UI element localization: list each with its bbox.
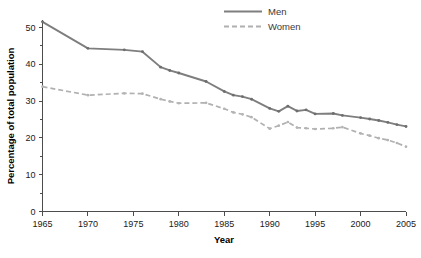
- data-point-men: [86, 47, 89, 50]
- data-point-men: [368, 118, 371, 121]
- data-point-women: [123, 92, 126, 95]
- series-markers-men: [41, 20, 407, 127]
- chart-figure: 01020304050 1965197019751980198519901995…: [0, 0, 421, 258]
- data-point-men: [41, 20, 44, 23]
- series-line-men: [43, 22, 407, 127]
- x-tick-label: 1985: [214, 219, 234, 229]
- data-point-men: [123, 48, 126, 51]
- data-point-women: [386, 139, 389, 142]
- y-tick-label: 0: [30, 207, 35, 217]
- data-point-men: [386, 121, 389, 124]
- x-axis-tick-labels: 196519701975198019851990199520002005: [32, 219, 416, 229]
- data-point-women: [296, 126, 299, 129]
- data-point-men: [159, 66, 162, 69]
- x-tick-label: 2000: [351, 219, 371, 229]
- data-point-men: [232, 94, 235, 97]
- x-tick-label: 2005: [396, 219, 416, 229]
- data-point-women: [41, 85, 44, 88]
- caption-strip: [0, 247, 421, 258]
- data-point-men: [277, 110, 280, 113]
- chart-legend: Men Women: [224, 6, 301, 32]
- x-tick-label: 1990: [260, 219, 280, 229]
- data-point-women: [159, 98, 162, 101]
- legend-label-women: Women: [268, 21, 301, 32]
- data-point-men: [377, 119, 380, 122]
- data-point-men: [268, 107, 271, 110]
- line-chart-canvas: 01020304050 1965197019751980198519901995…: [0, 0, 421, 258]
- data-point-men: [296, 110, 299, 113]
- x-tick-label: 1965: [32, 219, 52, 229]
- data-point-women: [223, 107, 226, 110]
- data-point-women: [205, 102, 208, 105]
- data-point-men: [314, 112, 317, 115]
- data-point-men: [359, 116, 362, 119]
- data-point-men: [168, 69, 171, 72]
- x-tick-label: 1975: [123, 219, 143, 229]
- x-tick-label: 1970: [78, 219, 98, 229]
- data-point-women: [314, 128, 317, 131]
- data-point-men: [405, 125, 408, 128]
- x-tick-label: 1980: [169, 219, 189, 229]
- data-point-men: [205, 80, 208, 83]
- data-point-women: [241, 113, 244, 116]
- y-tick-label: 20: [25, 133, 35, 143]
- data-point-women: [405, 145, 408, 148]
- data-point-women: [287, 121, 290, 124]
- data-point-women: [277, 124, 280, 127]
- data-point-men: [241, 95, 244, 98]
- data-point-men: [223, 90, 226, 93]
- x-tick-label: 1995: [305, 219, 325, 229]
- x-axis-title: Year: [214, 234, 234, 245]
- data-point-women: [359, 132, 362, 135]
- data-point-men: [305, 108, 308, 111]
- data-point-women: [377, 137, 380, 140]
- data-point-women: [368, 134, 371, 137]
- data-point-women: [141, 92, 144, 95]
- data-point-women: [250, 116, 253, 119]
- data-point-men: [250, 98, 253, 101]
- data-point-women: [396, 142, 399, 145]
- y-axis-title: Percentage of total population: [5, 47, 16, 184]
- y-tick-label: 30: [25, 96, 35, 106]
- data-point-men: [332, 112, 335, 115]
- legend-label-men: Men: [268, 6, 286, 17]
- x-axis-major-ticks: [43, 212, 407, 216]
- data-point-women: [232, 111, 235, 114]
- data-point-women: [177, 102, 180, 105]
- y-tick-label: 40: [25, 59, 35, 69]
- y-tick-label: 10: [25, 170, 35, 180]
- data-point-women: [332, 127, 335, 130]
- y-axis-tick-labels: 01020304050: [25, 23, 35, 217]
- y-tick-label: 50: [25, 23, 35, 33]
- data-point-women: [268, 127, 271, 130]
- data-point-women: [168, 100, 171, 103]
- data-point-men: [341, 114, 344, 117]
- data-point-men: [177, 72, 180, 75]
- data-point-women: [87, 94, 90, 97]
- data-point-men: [286, 105, 289, 108]
- data-point-women: [341, 126, 344, 129]
- data-point-women: [305, 127, 308, 130]
- data-point-men: [395, 123, 398, 126]
- data-point-men: [141, 50, 144, 53]
